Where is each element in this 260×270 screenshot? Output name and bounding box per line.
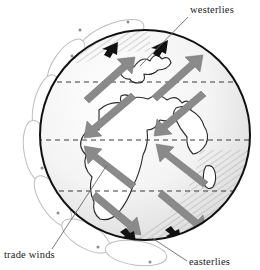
circulation-cell-loop [104, 237, 169, 269]
label-westerlies: westerlies [190, 4, 234, 15]
label-trade-winds: trade winds [4, 249, 55, 260]
diagram-canvas: westerlies trade winds easterlies [0, 0, 260, 270]
label-easterlies: easterlies [189, 256, 230, 267]
